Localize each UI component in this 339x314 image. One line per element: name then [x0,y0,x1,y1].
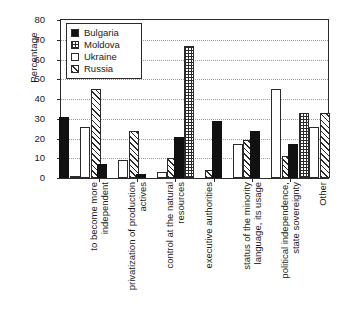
legend-item-label: Ukraine [84,52,117,62]
y-tick-label: 60 [19,54,45,65]
x-axis-label-line: Other [317,182,328,312]
y-tick-label: 40 [19,93,45,104]
bar-bulgaria [250,131,260,178]
x-axis-label-text: control at the naturalresources [164,182,186,312]
bar-moldova [184,46,194,178]
legend-item-ukraine[interactable]: Ukraine [71,51,137,63]
x-axis-label: privatization of productionactives [126,182,152,312]
bar-ukraine [80,127,90,178]
legend-swatch-icon [71,53,79,61]
x-axis-label-text: to become moreindependent [88,182,110,312]
x-axis-label: status of the minoritylanguage, its usag… [241,182,267,312]
y-tick-label: 70 [19,34,45,45]
bar-bulgaria [59,117,69,178]
y-tick-label: 10 [19,152,45,163]
y-tick-label: 80 [19,14,45,25]
x-axis-label: political independence,state sovereignty [279,182,305,312]
x-axis-label: control at the naturalresources [164,182,190,312]
bar-chart-figure: Percentage 01020304050607080 BulgariaMol… [0,0,339,314]
bar-ukraine [309,127,319,178]
legend-item-label: Moldova [84,40,120,50]
bar-group [214,20,252,178]
legend-item-moldova[interactable]: Moldova [71,39,137,51]
x-axis-label-text: executive authorities [203,182,214,312]
x-axis-label-line: status of the minority [241,182,252,312]
legend-item-label: Russia [84,64,113,74]
bar-ukraine [233,144,243,178]
y-tick-label: 50 [19,73,45,84]
x-axis-label: to become moreindependent [88,182,114,312]
x-axis-label-line: independent [99,182,110,312]
bar-ukraine [118,160,128,178]
bar-ukraine [271,89,281,178]
bar-moldova [70,176,80,178]
y-tick-mark [57,178,61,179]
x-axis-labels: to become moreindependentprivatization o… [60,182,327,314]
y-tick-label: 0 [19,172,45,183]
bar-bulgaria [212,121,222,178]
x-axis-label-line: to become more [88,182,99,312]
x-axis-label-line: executive authorities [203,182,214,312]
y-tick-label: 30 [19,113,45,124]
legend-item-bulgaria[interactable]: Bulgaria [71,27,137,39]
bar-group [137,20,175,178]
bar-group [175,20,213,178]
x-axis-label: Other [317,182,339,312]
x-axis-label-line: control at the natural [164,182,175,312]
x-axis-label-text: Other [317,182,328,312]
legend-swatch-icon [71,65,79,73]
bar-group [252,20,290,178]
bar-bulgaria [97,164,107,178]
bar-bulgaria [174,137,184,178]
bar-moldova [299,113,309,178]
x-axis-label-line: state sovereignty [290,182,301,312]
x-axis-label-text: political independence,state sovereignty [279,182,301,312]
x-axis-label-line: language, its usage [252,182,263,312]
bar-group [290,20,328,178]
legend: BulgariaMoldovaUkraineRussia [66,23,142,79]
bar-ukraine [157,172,167,178]
legend-item-label: Bulgaria [84,28,119,38]
bar-russia [320,113,330,178]
x-axis-label-line: privatization of production [126,182,137,312]
legend-swatch-icon [71,41,79,49]
y-tick-label: 20 [19,133,45,144]
bar-bulgaria [288,144,298,178]
x-axis-label-line: actives [137,182,148,312]
x-axis-label-line: political independence, [279,182,290,312]
x-axis-label-text: status of the minoritylanguage, its usag… [241,182,263,312]
legend-swatch-icon [71,29,79,37]
x-axis-label-line: resources [175,182,186,312]
x-axis-label: executive authorities [203,182,229,312]
x-axis-label-text: privatization of productionactives [126,182,148,312]
legend-item-russia[interactable]: Russia [71,63,137,75]
